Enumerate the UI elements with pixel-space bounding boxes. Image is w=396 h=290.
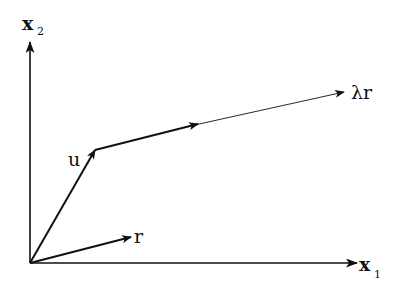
x1-axis-label: x 1 — [359, 253, 381, 281]
vector-u-plus-r — [95, 124, 198, 150]
vector-diagram: x 2 x 1 u r λr — [0, 0, 396, 290]
lambda-r-label: λr — [351, 81, 373, 103]
x2-label-main: x — [22, 12, 34, 34]
x2-axis-label: x 2 — [22, 12, 44, 38]
vector-r — [30, 237, 131, 263]
ray-lambda-r — [190, 92, 344, 126]
vector-u — [30, 150, 95, 263]
vector-u-label: u — [68, 148, 80, 170]
x1-label-main: x — [359, 253, 371, 275]
x2-label-subscript: 2 — [37, 25, 44, 38]
vector-r-label: r — [134, 225, 144, 247]
x1-label-subscript: 1 — [374, 268, 381, 281]
